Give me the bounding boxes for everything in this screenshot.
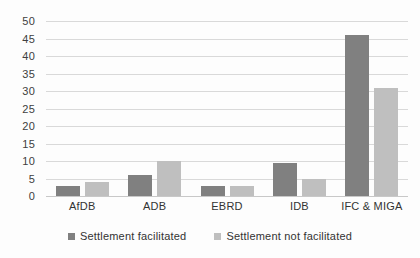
bar[interactable] — [374, 88, 398, 197]
y-axis-tick-label: 20 — [22, 120, 35, 132]
legend-label: Settlement not facilitated — [226, 230, 352, 242]
bar-group — [263, 21, 335, 196]
x-axis-tick-label: IFC & MIGA — [336, 200, 408, 212]
y-axis-tick-label: 15 — [22, 138, 35, 150]
bar[interactable] — [85, 182, 109, 196]
y-axis-tick-label: 10 — [22, 155, 35, 167]
bar-group — [191, 21, 263, 196]
bar[interactable] — [302, 179, 326, 197]
x-axis: AfDBADBEBRDIDBIFC & MIGA — [46, 200, 408, 212]
bar[interactable] — [157, 161, 181, 196]
x-axis-tick-label: IDB — [263, 200, 335, 212]
chart-legend: Settlement facilitatedSettlement not fac… — [0, 230, 420, 242]
x-axis-tick-label: ADB — [118, 200, 190, 212]
y-axis-tick-label: 40 — [22, 50, 35, 62]
legend-item[interactable]: Settlement not facilitated — [214, 230, 352, 242]
legend-label: Settlement facilitated — [80, 230, 187, 242]
bar[interactable] — [201, 186, 225, 197]
y-axis-tick-label: 45 — [22, 33, 35, 45]
bar-group — [46, 21, 118, 196]
y-axis-tick-label: 25 — [22, 103, 35, 115]
bar-group — [336, 21, 408, 196]
gridline-0 — [46, 196, 408, 197]
bar[interactable] — [345, 35, 369, 196]
x-axis-tick-label: EBRD — [191, 200, 263, 212]
y-axis-tick-label: 50 — [22, 15, 35, 27]
bar[interactable] — [56, 186, 80, 197]
y-axis-tick-label: 30 — [22, 85, 35, 97]
y-axis-tick-label: 0 — [29, 190, 35, 202]
legend-item[interactable]: Settlement facilitated — [68, 230, 187, 242]
bar[interactable] — [273, 163, 297, 196]
bar[interactable] — [230, 186, 254, 197]
bar-chart: 50454035302520151050 AfDBADBEBRDIDBIFC &… — [0, 0, 420, 258]
bar-group — [118, 21, 190, 196]
legend-swatch-icon — [68, 233, 75, 240]
x-axis-tick-label: AfDB — [46, 200, 118, 212]
y-axis: 50454035302520151050 — [0, 21, 42, 196]
y-axis-tick-label: 5 — [29, 173, 35, 185]
legend-swatch-icon — [214, 233, 221, 240]
bar[interactable] — [128, 175, 152, 196]
bar-groups — [46, 21, 408, 196]
y-axis-tick-label: 35 — [22, 68, 35, 80]
